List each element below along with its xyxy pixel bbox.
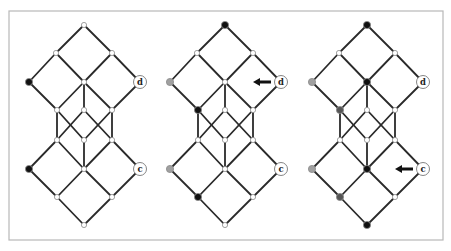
node-l5b bbox=[81, 137, 86, 142]
edge bbox=[225, 25, 253, 53]
node-top bbox=[221, 21, 228, 28]
edge bbox=[198, 197, 225, 225]
node-l7a bbox=[194, 193, 201, 200]
edge bbox=[367, 82, 395, 110]
edge bbox=[84, 53, 112, 82]
node-l7a bbox=[336, 193, 343, 200]
label-d: d bbox=[137, 77, 143, 87]
node-top bbox=[81, 22, 86, 27]
edge bbox=[57, 169, 84, 197]
edge bbox=[225, 169, 253, 197]
edge bbox=[29, 169, 57, 197]
node-l5b bbox=[222, 137, 227, 142]
edge bbox=[170, 140, 198, 169]
edge bbox=[225, 53, 253, 82]
node-l4c bbox=[109, 107, 114, 112]
edge bbox=[29, 82, 57, 110]
edge bbox=[170, 169, 198, 197]
node-l6b bbox=[81, 166, 86, 171]
node-l2a bbox=[336, 50, 341, 55]
nodes: dc bbox=[308, 21, 429, 228]
figure-frame bbox=[9, 11, 443, 240]
node-l4a bbox=[194, 106, 201, 113]
node-l5a bbox=[337, 137, 342, 142]
edge bbox=[56, 53, 84, 82]
edge bbox=[84, 169, 112, 197]
node-l2a bbox=[194, 50, 199, 55]
label-d: d bbox=[278, 77, 284, 87]
edge bbox=[367, 197, 395, 225]
edge bbox=[197, 25, 225, 53]
arrow-icon bbox=[253, 78, 271, 86]
panel-2: dc bbox=[166, 21, 287, 227]
edge bbox=[170, 82, 198, 110]
edge bbox=[312, 82, 340, 110]
edge bbox=[84, 140, 112, 169]
label-d: d bbox=[420, 77, 426, 87]
node-l3b bbox=[363, 78, 370, 85]
node-bottom bbox=[222, 222, 227, 227]
label-c: c bbox=[137, 164, 142, 174]
node-l4a bbox=[336, 106, 343, 113]
panel-3: dc bbox=[308, 21, 429, 228]
edge bbox=[225, 140, 253, 169]
edges bbox=[312, 25, 423, 225]
edge bbox=[367, 53, 395, 82]
edge bbox=[57, 197, 84, 225]
node-l6b bbox=[222, 166, 227, 171]
node-l5b bbox=[364, 137, 369, 142]
edge bbox=[198, 169, 225, 197]
arrow-icon bbox=[395, 165, 413, 173]
node-l6a bbox=[308, 165, 315, 172]
edge bbox=[367, 169, 395, 197]
node-l3b bbox=[222, 79, 227, 84]
edge bbox=[198, 82, 225, 110]
node-l2a bbox=[53, 50, 58, 55]
edge bbox=[84, 82, 112, 110]
edges bbox=[170, 25, 281, 225]
edge bbox=[312, 140, 340, 169]
edge bbox=[84, 25, 112, 53]
edge bbox=[340, 82, 367, 110]
nodes: dc bbox=[25, 22, 146, 227]
node-l6a bbox=[166, 165, 173, 172]
node-l3a bbox=[166, 78, 173, 85]
label-c: c bbox=[278, 164, 283, 174]
edge bbox=[340, 169, 367, 197]
node-l5c bbox=[109, 137, 114, 142]
node-l2b bbox=[109, 50, 114, 55]
edge bbox=[84, 197, 112, 225]
edge bbox=[29, 53, 56, 82]
node-l5a bbox=[54, 137, 59, 142]
edges bbox=[29, 25, 140, 225]
node-bottom bbox=[81, 222, 86, 227]
edge bbox=[56, 25, 84, 53]
edge bbox=[339, 53, 367, 82]
edge bbox=[312, 53, 339, 82]
node-l6a bbox=[25, 165, 32, 172]
edge bbox=[170, 53, 197, 82]
edge bbox=[29, 140, 57, 169]
node-l3a bbox=[25, 78, 32, 85]
edge bbox=[198, 140, 225, 169]
node-l3b bbox=[81, 79, 86, 84]
node-l5a bbox=[195, 137, 200, 142]
node-l4b bbox=[364, 107, 369, 112]
edge bbox=[367, 25, 395, 53]
edge bbox=[340, 140, 367, 169]
node-l4a bbox=[54, 107, 59, 112]
edge bbox=[339, 25, 367, 53]
nodes: dc bbox=[166, 21, 287, 227]
node-l4b bbox=[81, 107, 86, 112]
edge bbox=[57, 82, 84, 110]
node-l4b bbox=[222, 107, 227, 112]
node-l3a bbox=[308, 78, 315, 85]
edge bbox=[57, 140, 84, 169]
node-l5c bbox=[392, 137, 397, 142]
node-l2b bbox=[392, 50, 397, 55]
panel-1: dc bbox=[25, 22, 146, 227]
lattice-figure: dcdcdc bbox=[0, 0, 451, 251]
node-l6b bbox=[363, 165, 370, 172]
node-l7b bbox=[392, 194, 397, 199]
node-l4c bbox=[392, 107, 397, 112]
